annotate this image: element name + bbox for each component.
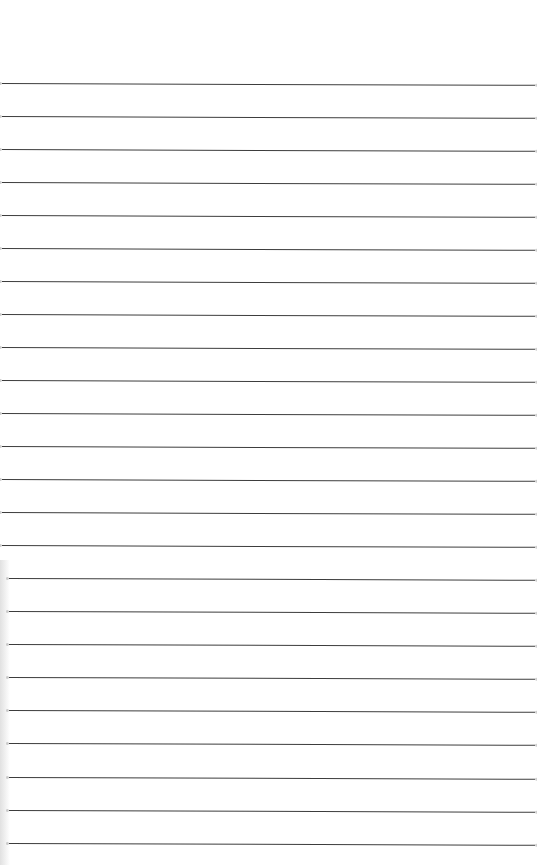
- ruled-line: [9, 611, 535, 614]
- ruled-line: [2, 413, 535, 416]
- lined-paper-page: [0, 0, 537, 865]
- ruled-line: [2, 248, 535, 251]
- ruled-line: [2, 83, 535, 86]
- ruled-line: [2, 116, 535, 119]
- ruled-line: [9, 677, 535, 680]
- ruled-line: [9, 578, 535, 581]
- page-edge-shadow: [0, 560, 10, 865]
- ruled-line: [2, 314, 535, 317]
- ruled-line: [9, 644, 535, 647]
- ruled-line: [2, 446, 535, 449]
- ruled-line: [2, 380, 535, 383]
- ruled-line: [9, 810, 535, 813]
- ruled-line: [9, 777, 535, 780]
- ruled-line: [9, 843, 535, 846]
- ruled-line: [2, 182, 535, 185]
- ruled-line: [2, 281, 535, 284]
- ruled-line: [2, 479, 535, 482]
- ruled-line: [2, 149, 535, 152]
- ruled-line: [9, 743, 535, 746]
- ruled-line: [2, 215, 535, 218]
- ruled-line: [2, 512, 535, 515]
- ruled-line: [2, 347, 535, 350]
- ruled-line: [2, 545, 535, 548]
- ruled-line: [9, 710, 535, 713]
